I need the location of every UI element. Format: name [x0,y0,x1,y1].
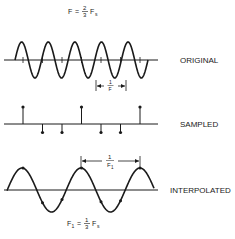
interpolated-point [119,199,122,202]
sampled-label: SAMPLED [180,120,218,129]
period-marker-original: 1 F [96,79,126,92]
svg-text:s: s [95,11,98,17]
svg-text:F: F [90,8,94,15]
sample-stem [119,124,122,134]
interpolated-point [61,198,64,201]
period-marker-interpolated: 1 F 1 [81,154,140,170]
interpolated-point [80,167,83,170]
svg-text:F: F [68,8,72,15]
interpolated-point [100,200,103,203]
svg-text:F: F [109,86,112,92]
sample-stem [138,105,141,124]
sample-stem [41,124,44,134]
sample-stems [21,105,141,134]
svg-text:1: 1 [109,79,112,85]
svg-text:1: 1 [111,165,114,170]
svg-text:1: 1 [108,154,112,160]
interpolated-point [22,167,25,170]
sample-stem [21,105,24,124]
interpolated-panel: INTERPOLATED 1 F 1 [4,154,231,212]
svg-text:s: s [97,223,100,229]
svg-text:2: 2 [83,5,87,11]
bottom-formula: F 1 = 1 3 F s [67,217,100,230]
svg-text:1: 1 [85,217,89,223]
svg-text:=: = [77,220,81,227]
original-label: ORIGINAL [180,56,219,65]
interpolated-point [41,201,44,204]
interpolated-sample-points [22,167,142,205]
interpolated-label: INTERPOLATED [170,186,231,195]
sampling-diagram: F = 2 3 F s ORIGINAL 1 F SAMPLED [0,0,235,239]
sample-stem [60,124,63,134]
svg-text:=: = [75,8,79,15]
original-panel: ORIGINAL 1 F [4,42,219,92]
sample-stem [80,105,83,124]
title-formula: F = 2 3 F s [68,5,98,18]
sampled-panel: SAMPLED [4,105,218,134]
sample-stem [99,124,102,134]
svg-text:3: 3 [85,224,89,230]
svg-text:1: 1 [72,223,75,229]
svg-text:F: F [92,220,96,227]
svg-text:3: 3 [83,12,87,18]
